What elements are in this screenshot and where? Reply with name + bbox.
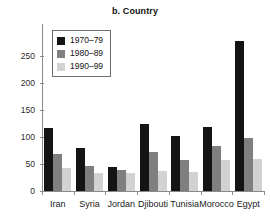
bar xyxy=(235,41,244,191)
legend-swatch xyxy=(57,63,65,71)
x-tick-label: Jordan xyxy=(108,199,136,209)
bar xyxy=(140,124,149,191)
legend-label: 1970–79 xyxy=(70,36,103,45)
chart-title: b. Country xyxy=(0,6,270,16)
bar xyxy=(221,160,230,191)
x-tick-label: Syria xyxy=(79,199,100,209)
x-tick-mark xyxy=(105,191,106,195)
x-tick-label: Tunisia xyxy=(170,199,199,209)
bar xyxy=(212,146,221,191)
x-tick-mark xyxy=(74,191,75,195)
bar xyxy=(244,138,253,191)
bar xyxy=(253,159,262,191)
legend-item: 1980–89 xyxy=(57,47,103,60)
x-tick-mark xyxy=(264,191,265,195)
x-tick-label: Egypt xyxy=(237,199,260,209)
y-tick-label: 250 xyxy=(0,51,41,61)
bar xyxy=(44,128,53,191)
bar-group xyxy=(140,24,167,191)
x-tick-mark xyxy=(201,191,202,195)
bar xyxy=(85,166,94,191)
y-tick-label: 0 xyxy=(0,186,41,196)
x-tick-mark xyxy=(42,191,43,195)
legend-swatch xyxy=(57,50,65,58)
bar xyxy=(53,154,62,191)
legend-label: 1990–99 xyxy=(70,62,103,71)
y-tick-label: 100 xyxy=(0,132,41,142)
bar-group xyxy=(171,24,198,191)
x-tick-label: Djibouti xyxy=(138,199,168,209)
legend-item: 1970–79 xyxy=(57,34,103,47)
x-tick-mark xyxy=(232,191,233,195)
legend: 1970–791980–891990–99 xyxy=(52,30,111,77)
bar xyxy=(189,172,198,191)
x-axis-line xyxy=(42,191,264,192)
bar-chart: b. Country 050100150200250 IranSyriaJord… xyxy=(0,0,270,223)
bar xyxy=(94,173,103,191)
x-tick-label: Iran xyxy=(50,199,66,209)
legend-swatch xyxy=(57,37,65,45)
bar xyxy=(171,136,180,191)
bar xyxy=(62,168,71,191)
bar-group xyxy=(108,24,135,191)
bar-group xyxy=(203,24,230,191)
bar xyxy=(180,160,189,191)
x-tick-mark xyxy=(137,191,138,195)
y-tick-label: 50 xyxy=(0,159,41,169)
bar xyxy=(117,170,126,191)
y-tick-label: 200 xyxy=(0,78,41,88)
legend-item: 1990–99 xyxy=(57,60,103,73)
x-tick-mark xyxy=(169,191,170,195)
bar xyxy=(108,167,117,191)
bar-group xyxy=(235,24,262,191)
bar xyxy=(203,127,212,191)
bar xyxy=(126,173,135,191)
bar xyxy=(76,148,85,191)
legend-label: 1980–89 xyxy=(70,49,103,58)
bar xyxy=(149,152,158,191)
x-tick-label: Morocco xyxy=(199,199,234,209)
y-tick-label: 150 xyxy=(0,105,41,115)
bar xyxy=(158,171,167,191)
